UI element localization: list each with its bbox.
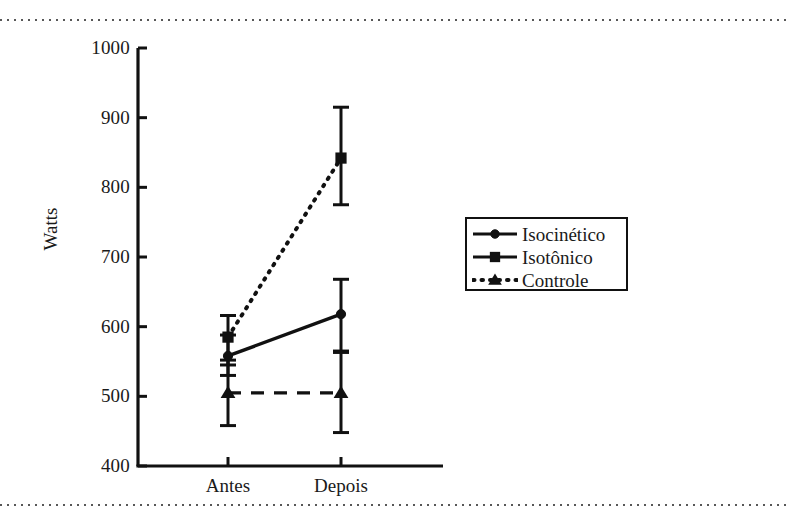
x-tick-label-depois: Depois	[271, 476, 411, 495]
chart-figure: 4005006007008009001000 AntesDepois Watts…	[0, 0, 789, 522]
marker-isocin-tico-depois	[336, 310, 345, 319]
legend-item-isot-nico: Isotônico	[467, 245, 626, 269]
marker-controle-depois	[334, 386, 349, 398]
series-markers	[221, 152, 349, 397]
y-tick-label-600: 600	[40, 317, 130, 336]
series-connector-lines	[228, 158, 341, 393]
legend: IsocinéticoIsotônicoControle	[465, 217, 628, 291]
legend-label-controle: Controle	[522, 271, 589, 290]
marker-isot-nico-antes	[222, 332, 233, 343]
y-tick-label-1000: 1000	[40, 38, 130, 57]
legend-item-controle: Controle	[467, 268, 626, 292]
series-line-isocin-tico	[228, 314, 341, 356]
axes-lines	[136, 48, 443, 466]
y-tick-label-900: 900	[40, 108, 130, 127]
legend-label-isot-nico: Isotônico	[522, 248, 593, 267]
marker-isocin-tico-antes	[223, 351, 232, 360]
legend-label-isocin-tico: Isocinético	[522, 225, 605, 244]
y-tick-label-500: 500	[40, 386, 130, 405]
series-error-bars	[220, 107, 349, 432]
y-axis-title: Watts	[40, 174, 62, 284]
legend-key-controle	[472, 269, 518, 291]
y-tick-label-400: 400	[40, 456, 130, 475]
marker-isot-nico-depois	[335, 152, 346, 163]
series-line-isot-nico	[228, 158, 341, 337]
legend-key-isocin-tico	[472, 223, 518, 245]
legend-key-isot-nico	[472, 246, 518, 268]
legend-item-isocin-tico: Isocinético	[467, 222, 626, 246]
